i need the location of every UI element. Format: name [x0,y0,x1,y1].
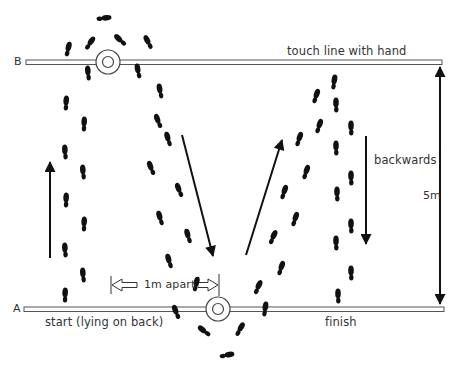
footprint-icon [142,34,153,50]
footprint-icon [267,229,278,245]
footprint-icon [314,118,324,134]
footprint-icon [63,192,69,207]
cone-top-icon [96,50,120,74]
footprint-icon [234,321,246,337]
footprint-icon [333,98,339,113]
footprint-icon [290,211,300,227]
footprint-icon [80,267,87,282]
footprint-icon [348,171,354,186]
footprint-icon [174,182,184,198]
footprint-icon [334,187,340,202]
footprint-icon [163,131,172,147]
backwards-label: backwards [374,153,437,167]
footprint-icon [155,210,164,226]
footprint-icon [81,116,88,131]
footprint-icon [276,260,286,276]
hollow-arrow-right-icon [198,279,218,291]
distance-label: 5m [423,189,441,202]
footprint-icon [63,95,70,110]
footprint-icon [62,242,68,257]
footprint-icon [348,266,354,281]
footprint-icon [294,131,304,147]
hollow-arrow-left-icon [112,279,137,291]
footprint-icon [311,88,321,104]
arrow-up-diagonal-icon [246,140,282,255]
footprint-icon [156,83,164,99]
footprint-icon [301,164,311,180]
footprint-icon [96,15,111,22]
footprint-icon [146,160,156,176]
footprint-icon [348,121,354,136]
finish-label: finish [325,315,357,329]
line-b [26,60,442,65]
footprint-icon [63,41,72,57]
cone-bottom-icon [206,297,230,321]
footprint-icon [164,253,173,269]
footprint-icon [279,184,289,200]
footprint-icon [153,113,163,129]
line-b-label: B [14,55,22,68]
touch-line-label: touch line with hand [287,44,407,58]
footprint-icon [219,351,235,359]
footprint-icon [134,63,142,79]
footprint-icon [348,219,354,234]
arrows [50,67,440,304]
footprint-icon [85,65,92,80]
footprint-icon [252,279,263,295]
footprint-icon [196,324,211,338]
spacing-label: 1m apart [144,278,195,291]
footprint-icon [81,216,88,231]
start-label: start (lying on back) [45,315,163,329]
footprint-icon [335,289,341,304]
footprint-icon [333,141,339,156]
footprint-icon [62,144,68,159]
footprint-icon [62,287,68,302]
footprint-icon [330,74,338,90]
footprint-icon [333,236,339,251]
footprint-icon [113,33,128,48]
line-a [24,307,444,312]
footprint-icon [183,228,192,244]
arrow-down-diagonal-icon [182,135,213,256]
footprint-icon [83,35,96,50]
line-a-label: A [13,302,21,315]
footprint-icon [80,164,87,179]
